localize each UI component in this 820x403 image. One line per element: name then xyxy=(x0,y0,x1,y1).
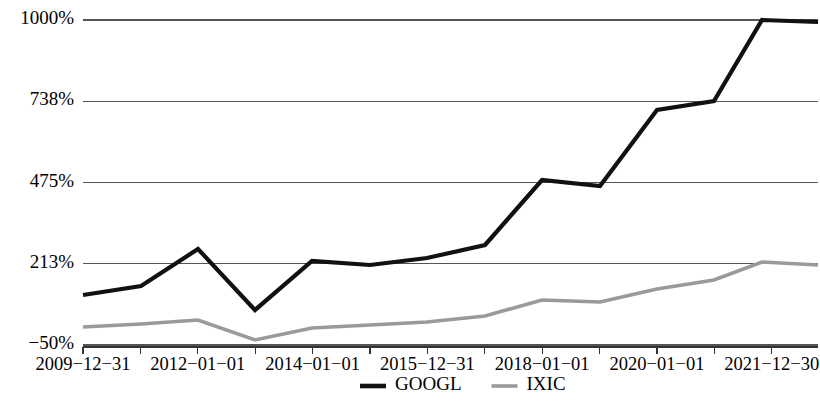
x-tick-label: 2015−12−31 xyxy=(380,354,475,374)
stock-performance-line-chart: 1000%738%475%213%−50% 2009−12−312012−01−… xyxy=(0,0,820,403)
x-tick-label: 2009−12−31 xyxy=(36,354,131,374)
y-tick-label: −50% xyxy=(28,332,74,353)
data-series xyxy=(83,20,818,340)
x-tick-label: 2014−01−01 xyxy=(265,354,360,374)
y-tick-label: 1000% xyxy=(20,7,74,28)
y-tick-label: 213% xyxy=(30,251,75,272)
legend-label-googl: GOOGL xyxy=(395,373,462,394)
chart-container: 1000%738%475%213%−50% 2009−12−312012−01−… xyxy=(0,0,820,403)
series-line-googl xyxy=(83,20,818,310)
x-axis-tick-labels: 2009−12−312012−01−012014−01−012015−12−31… xyxy=(36,354,820,374)
chart-legend: GOOGLIXIC xyxy=(360,373,566,394)
x-tick-label: 2021−12−30 xyxy=(724,354,819,374)
gridlines xyxy=(83,20,818,345)
x-tick-label: 2012−01−01 xyxy=(150,354,245,374)
y-axis-tick-labels: 1000%738%475%213%−50% xyxy=(20,7,74,353)
legend-label-ixic: IXIC xyxy=(527,373,566,394)
x-tick-label: 2018−01−01 xyxy=(495,354,590,374)
y-tick-label: 475% xyxy=(30,170,75,191)
series-line-ixic xyxy=(83,262,818,340)
y-tick-label: 738% xyxy=(30,88,75,109)
x-tick-label: 2020−01−01 xyxy=(610,354,705,374)
